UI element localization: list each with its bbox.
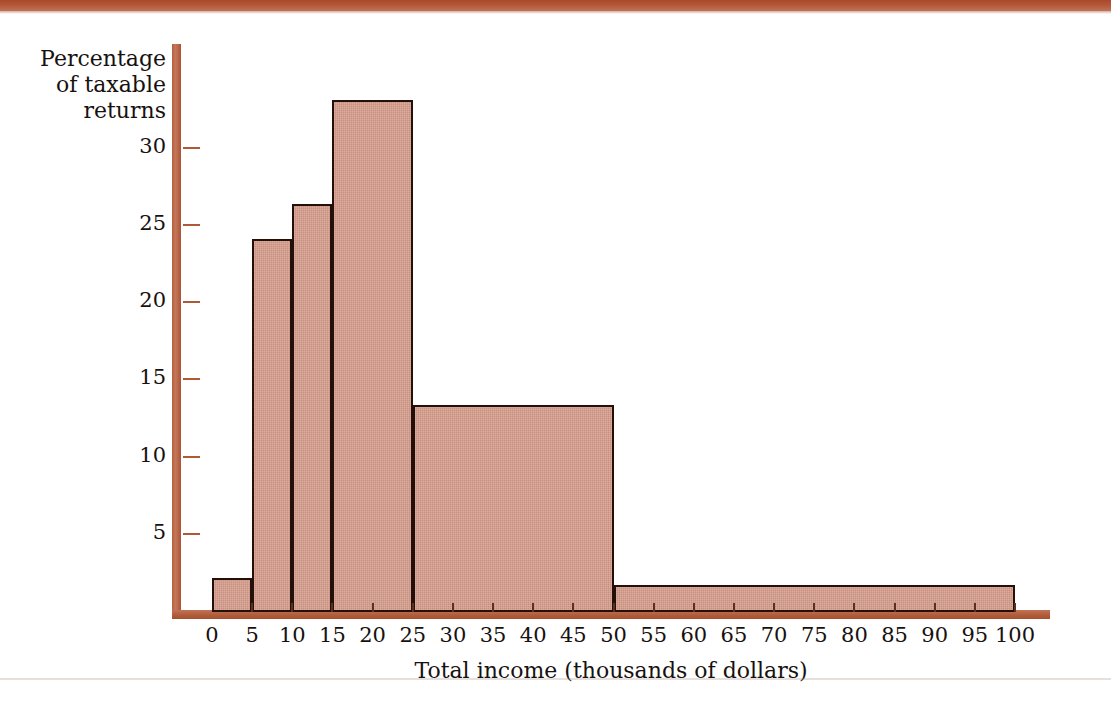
y-axis-line	[172, 44, 181, 616]
page-top-rule	[0, 0, 1111, 11]
x-axis-tick	[452, 603, 454, 612]
x-axis-tick	[894, 603, 896, 612]
y-axis-tick-label: 5	[126, 522, 166, 543]
x-axis-tick	[372, 603, 374, 612]
x-axis-tick	[853, 603, 855, 612]
x-axis-tick	[974, 603, 976, 612]
y-axis-tick	[183, 533, 200, 535]
y-axis-tick-label-wrap: 15	[118, 378, 166, 379]
x-axis-tick	[331, 603, 333, 612]
x-axis-tick	[291, 603, 293, 612]
y-axis-tick	[183, 456, 200, 458]
x-axis-tick	[613, 603, 615, 612]
y-axis-title: Percentage of taxable returns	[22, 46, 166, 124]
x-axis-tick	[492, 603, 494, 612]
histogram-bar	[292, 204, 332, 612]
x-axis-tick	[653, 603, 655, 612]
x-axis-tick	[693, 603, 695, 612]
y-axis-tick-label: 10	[126, 445, 166, 466]
x-axis-tick	[532, 603, 534, 612]
y-axis-tick-label: 15	[126, 367, 166, 388]
y-axis-tick-label: 25	[126, 213, 166, 234]
x-axis-tick-label: 100	[985, 625, 1045, 646]
x-axis-tick	[572, 603, 574, 612]
y-axis-tick-label-wrap: 20	[118, 301, 166, 302]
page-bottom-rule	[0, 678, 1111, 680]
histogram-bar	[212, 578, 252, 612]
x-axis-tick	[813, 603, 815, 612]
x-axis-tick	[251, 603, 253, 612]
x-axis-tick	[1014, 603, 1016, 612]
y-axis-tick	[183, 224, 200, 226]
histogram-chart: Percentage of taxable returns 5101520253…	[0, 14, 1111, 704]
y-axis-tick-label-wrap: 30	[118, 147, 166, 148]
y-axis-tick-label-wrap: 25	[118, 224, 166, 225]
y-axis-tick-label-wrap: 5	[118, 533, 166, 534]
y-axis-tick	[183, 301, 200, 303]
y-axis-tick	[183, 147, 200, 149]
y-axis-tick-label: 30	[126, 136, 166, 157]
y-axis-tick-label: 20	[126, 290, 166, 311]
histogram-bar	[332, 100, 412, 612]
y-axis-tick	[183, 378, 200, 380]
x-axis-tick	[412, 603, 414, 612]
histogram-bar	[413, 405, 614, 612]
x-axis-tick	[773, 603, 775, 612]
x-axis-tick	[733, 603, 735, 612]
histogram-bar	[252, 239, 292, 612]
x-axis-tick	[934, 603, 936, 612]
y-axis-tick-label-wrap: 10	[118, 456, 166, 457]
